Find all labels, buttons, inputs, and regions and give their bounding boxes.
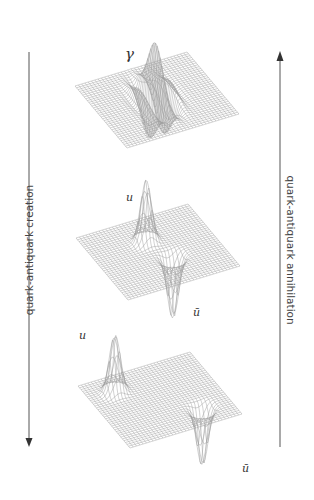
- mesh-line: [87, 217, 199, 251]
- mesh-line: [90, 213, 202, 254]
- antiquark-label-bottom: ū: [242, 462, 249, 475]
- pair-close-panel: [76, 180, 240, 318]
- quark-label-middle: u: [126, 191, 133, 204]
- mesh-line: [115, 396, 227, 430]
- mesh-line: [162, 212, 214, 274]
- photon-label: γ: [125, 45, 134, 63]
- antiquark-label-middle: ū: [193, 306, 200, 319]
- mesh-line: [171, 57, 223, 119]
- annihilation-arrow: [277, 51, 284, 447]
- mesh-line: [114, 250, 226, 284]
- mesh-line: [172, 209, 224, 271]
- mesh-line: [129, 412, 241, 446]
- mesh-line: [110, 390, 222, 424]
- mesh-line: [165, 211, 217, 273]
- mesh-line: [181, 206, 233, 268]
- quark-label-bottom: u: [79, 329, 86, 342]
- mesh-line: [125, 262, 237, 296]
- mesh-line: [104, 383, 216, 417]
- annihilation-label: quark-antiquark annihilation: [285, 175, 297, 324]
- mesh-line: [116, 101, 228, 135]
- mesh-line: [174, 56, 226, 118]
- pair-apart-panel: [78, 335, 242, 464]
- mesh-line: [107, 387, 219, 421]
- mesh-line: [127, 410, 239, 444]
- mesh-line: [119, 105, 231, 139]
- photon-wave-panel: [75, 43, 239, 148]
- arrow-head-down-icon: [26, 438, 33, 447]
- quark-field-diagram: quark-antiquark creation quark-antiquark…: [0, 0, 314, 500]
- mesh-line: [168, 210, 220, 272]
- arrow-head-up-icon: [277, 51, 284, 61]
- mesh-line: [187, 353, 239, 415]
- mesh-line: [106, 385, 218, 419]
- mesh-line: [161, 60, 213, 122]
- creation-label: quark-antiquark creation: [23, 185, 35, 315]
- mesh-line: [175, 208, 227, 270]
- mesh-line: [178, 207, 230, 269]
- mesh-line: [119, 255, 231, 289]
- mesh-line: [89, 339, 201, 399]
- mesh-line: [80, 58, 192, 92]
